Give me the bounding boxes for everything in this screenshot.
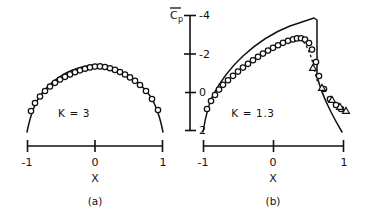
panel-b-caption: (b): [266, 195, 281, 207]
y-tick-label-0: 0: [199, 86, 206, 99]
panel-b-x-label--1: -1: [198, 156, 209, 169]
panel-b-x-label-0: 0: [270, 156, 277, 169]
panel-a-x-axis: -1 0 1 X: [22, 140, 167, 185]
y-tick-label--4: -4: [199, 9, 210, 22]
panel-b-data-triangles: [310, 64, 350, 113]
panel-a-x-axis-title: X: [91, 172, 99, 185]
panel-a-annotation: K = 3: [58, 107, 90, 119]
panel-a: K = 3 -1 0 1 X (a): [22, 64, 167, 207]
figure-container: -4 -2 0 2 C p: [0, 0, 372, 213]
panel-b: K = 1.3 -1 0 1 X (b): [198, 18, 350, 207]
panel-b-x-axis: -1 0 1 X: [198, 140, 348, 185]
panel-a-data-circles: [28, 64, 160, 114]
y-axis-group: -4 -2 0 2 C p: [170, 8, 210, 137]
y-axis-label-sub: p: [178, 15, 183, 24]
panel-a-x-label-1: 1: [160, 156, 167, 169]
panel-b-data-circles: [204, 36, 343, 112]
panel-b-annotation: K = 1.3: [231, 107, 274, 119]
y-tick-label--2: -2: [199, 48, 210, 61]
pressure-coefficient-figure: -4 -2 0 2 C p: [0, 0, 372, 213]
panel-b-x-axis-title: X: [269, 172, 277, 185]
panel-a-caption: (a): [88, 195, 103, 207]
panel-a-theory-curve: [27, 65, 163, 132]
panel-b-x-label-1: 1: [341, 156, 348, 169]
y-axis-label-main: C: [170, 9, 178, 22]
panel-a-x-label-0: 0: [92, 156, 99, 169]
y-axis-label: C p: [170, 8, 183, 24]
panel-a-x-label--1: -1: [22, 156, 33, 169]
